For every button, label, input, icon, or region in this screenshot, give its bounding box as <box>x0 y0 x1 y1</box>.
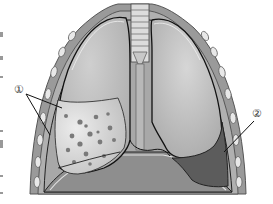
cropped-text-fragment <box>0 32 3 37</box>
cropped-text-fragment <box>0 130 3 132</box>
label-2: ② <box>252 108 262 119</box>
cropped-text-fragment <box>0 175 3 177</box>
right-lung <box>151 19 222 158</box>
cropped-text-fragment <box>0 192 3 194</box>
chest-diagram: ① ② <box>0 0 273 204</box>
label-1: ① <box>14 84 24 95</box>
cropped-text-fragment <box>0 56 3 60</box>
cropped-text-fragment <box>0 76 3 78</box>
chest-illustration <box>0 0 273 204</box>
cropped-text-fragment <box>0 140 3 148</box>
